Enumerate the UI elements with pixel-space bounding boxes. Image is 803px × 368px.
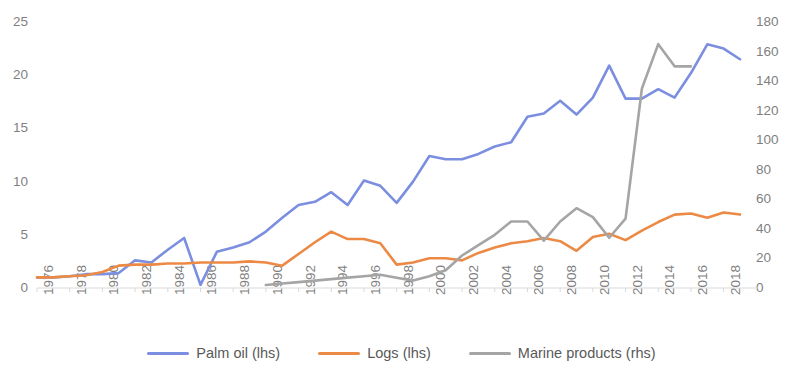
series-line (37, 212, 740, 277)
legend-swatch-icon (469, 352, 511, 355)
legend-item[interactable]: Logs (lhs) (318, 345, 431, 361)
legend-item[interactable]: Palm oil (lhs) (147, 345, 280, 361)
legend-item[interactable]: Marine products (rhs) (469, 345, 656, 361)
legend-swatch-icon (318, 352, 360, 355)
legend-label: Marine products (rhs) (518, 345, 656, 361)
plot-area (0, 0, 803, 368)
series-line (37, 44, 740, 284)
series-line (266, 44, 691, 285)
legend-swatch-icon (147, 352, 189, 355)
legend-label: Palm oil (lhs) (196, 345, 280, 361)
chart-legend: Palm oil (lhs)Logs (lhs)Marine products … (0, 340, 803, 366)
legend-label: Logs (lhs) (367, 345, 431, 361)
chart-container: 0510152025 020406080100120140160180 1976… (0, 0, 803, 368)
